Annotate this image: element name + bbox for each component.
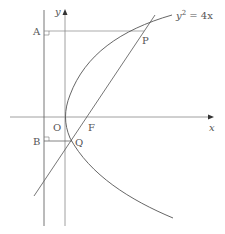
- point-a-label: A: [32, 26, 41, 37]
- point-b-label: B: [33, 136, 40, 147]
- x-axis-arrow-icon: [208, 115, 214, 120]
- equation-rest: = 4x: [186, 10, 213, 21]
- x-axis-label: x: [209, 122, 215, 133]
- right-angle-mark-a: [44, 31, 49, 35]
- parabola-diagram: y x O F P Q A B y2 = 4x: [0, 0, 225, 234]
- focus-label: F: [88, 122, 95, 133]
- y-axis-arrow-icon: [63, 9, 68, 15]
- parabola-curve: [66, 15, 174, 218]
- point-p-label: P: [142, 35, 149, 46]
- focal-chord-line: [34, 15, 155, 196]
- equation-label: y2 = 4x: [175, 9, 213, 21]
- point-q-label: Q: [75, 137, 83, 148]
- right-angle-mark-b: [44, 137, 49, 141]
- y-axis-label: y: [54, 6, 61, 17]
- origin-label: O: [53, 122, 61, 133]
